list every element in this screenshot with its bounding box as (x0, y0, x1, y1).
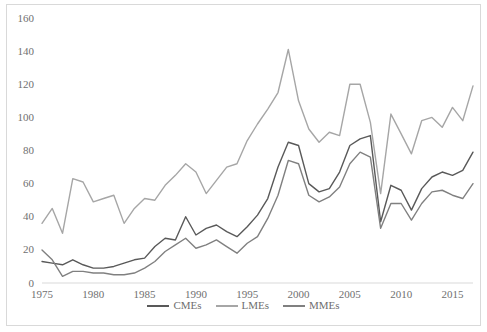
y-tick-label: 0 (0, 278, 34, 289)
y-tick-label: 80 (0, 145, 34, 156)
legend-swatch-cmes (147, 305, 169, 307)
y-tick-label: 100 (0, 112, 34, 123)
y-tick-label: 160 (0, 13, 34, 24)
y-tick-label: 120 (0, 79, 34, 90)
x-tick-label: 1985 (125, 289, 165, 300)
x-tick-label: 1975 (22, 289, 62, 300)
x-tick-label: 2010 (381, 289, 421, 300)
legend-item-cmes[interactable]: CMEs (147, 300, 201, 311)
legend-swatch-mmes (283, 305, 305, 307)
x-tick-label: 1980 (73, 289, 113, 300)
legend-label: LMEs (242, 300, 270, 311)
chart-legend: CMEsLMEsMMEs (0, 300, 487, 311)
legend-swatch-lmes (216, 305, 238, 307)
legend-label: MMEs (309, 300, 340, 311)
y-tick-label: 140 (0, 46, 34, 57)
x-tick-label: 2015 (432, 289, 472, 300)
y-tick-label: 40 (0, 211, 34, 222)
y-tick-label: 20 (0, 244, 34, 255)
legend-item-lmes[interactable]: LMEs (216, 300, 270, 311)
line-chart: 020406080100120140160 197519801985199019… (0, 0, 487, 332)
chart-frame (6, 4, 481, 326)
legend-item-mmes[interactable]: MMEs (283, 300, 340, 311)
legend-label: CMEs (173, 300, 201, 311)
y-tick-label: 60 (0, 178, 34, 189)
